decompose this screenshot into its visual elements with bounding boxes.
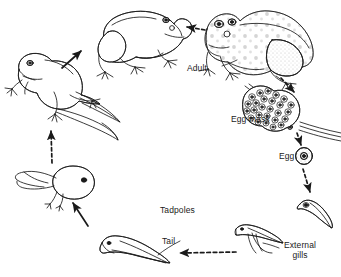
label-adult: Adult bbox=[187, 63, 207, 73]
arrow-adult-to-egg-mass bbox=[281, 78, 294, 92]
label-egg: Egg bbox=[279, 151, 294, 161]
label-external-gills-line1: External bbox=[284, 240, 316, 250]
froglet-with-tail-illustration bbox=[5, 53, 120, 140]
single-egg-illustration bbox=[296, 148, 313, 165]
egg-mass-illustration bbox=[243, 84, 341, 141]
arrow-hind-legs-to-froglet bbox=[51, 131, 52, 163]
tadpole-tail-illustration bbox=[100, 236, 170, 263]
label-external-gills: External gills bbox=[277, 240, 323, 260]
young-frog-illustration bbox=[97, 11, 192, 79]
frog-life-cycle-diagram: Adult Egg mass Egg External gills Tail T… bbox=[0, 0, 341, 277]
arrow-egg-mass-to-egg bbox=[297, 133, 301, 145]
arrow-gills-to-tadpole-tail bbox=[180, 252, 236, 253]
label-tail: Tail bbox=[162, 236, 175, 246]
adult-frog-illustration bbox=[199, 11, 313, 90]
embryo-larva-illustration bbox=[297, 200, 332, 228]
larva-external-gills-illustration bbox=[235, 225, 283, 253]
label-external-gills-line2: gills bbox=[292, 250, 307, 260]
label-tadpoles: Tadpoles bbox=[160, 205, 195, 215]
tadpole-hind-legs-illustration bbox=[15, 166, 94, 211]
arrow-egg-to-embryo bbox=[303, 169, 310, 192]
label-egg-mass: Egg mass bbox=[231, 114, 270, 124]
arrow-tadpole-tail-to-hind-legs bbox=[73, 203, 88, 226]
